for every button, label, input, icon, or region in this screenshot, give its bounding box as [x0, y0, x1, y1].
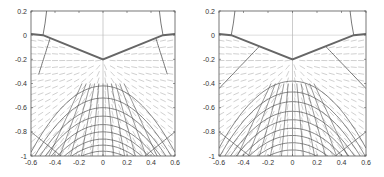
x-tick-label: -0.4 [237, 159, 249, 166]
y-tick-label: 0 [23, 32, 27, 39]
y-tick-label: -0.2 [203, 56, 215, 63]
x-tick-label: 0.2 [312, 159, 322, 166]
x-tick-label: 0.6 [361, 159, 371, 166]
y-tick-label: -0.8 [203, 128, 215, 135]
x-tick-label: -0.2 [262, 159, 274, 166]
right-plot-canvas: -0.6-0.4-0.200.20.40.60.20-0.2-0.4-0.6-0… [192, 0, 384, 177]
y-tick-label: -0.6 [203, 104, 215, 111]
y-tick-label: -1 [209, 153, 215, 160]
x-tick-label: 0 [291, 159, 295, 166]
y-tick-label: -0.6 [15, 104, 27, 111]
x-tick-label: 0.4 [337, 159, 347, 166]
y-tick-label: -0.4 [203, 80, 215, 87]
y-tick-label: 0 [211, 32, 215, 39]
x-tick-label: 0.4 [146, 159, 156, 166]
x-tick-label: -0.2 [73, 159, 85, 166]
x-tick-label: 0 [101, 159, 105, 166]
x-tick-label: -0.6 [25, 159, 37, 166]
y-tick-label: -0.4 [15, 80, 27, 87]
x-tick-label: -0.6 [213, 159, 225, 166]
x-tick-label: 0.6 [170, 159, 180, 166]
y-tick-label: 0.2 [205, 8, 215, 15]
right-plot: -0.6-0.4-0.200.20.40.60.20-0.2-0.4-0.6-0… [192, 0, 384, 177]
left-plot-canvas: -0.6-0.4-0.200.20.40.60.20-0.2-0.4-0.6-0… [0, 0, 192, 177]
y-tick-label: 0.2 [17, 8, 27, 15]
y-tick-label: -0.8 [15, 128, 27, 135]
left-plot: -0.6-0.4-0.200.20.40.60.20-0.2-0.4-0.6-0… [0, 0, 192, 177]
x-tick-label: 0.2 [122, 159, 132, 166]
x-tick-label: -0.4 [49, 159, 61, 166]
y-tick-label: -0.2 [15, 56, 27, 63]
y-tick-label: -1 [21, 153, 27, 160]
